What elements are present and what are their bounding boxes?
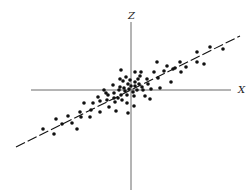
data-point <box>132 104 136 108</box>
data-point <box>112 96 116 100</box>
data-point <box>126 82 130 86</box>
data-point <box>91 101 95 105</box>
data-point <box>141 88 145 92</box>
data-point <box>136 77 140 81</box>
data-point <box>123 89 127 93</box>
data-point <box>107 105 111 109</box>
data-point <box>145 77 149 81</box>
data-point <box>178 60 182 64</box>
x-axis-label: X <box>237 84 246 95</box>
data-point <box>111 83 115 87</box>
data-point <box>125 101 129 105</box>
data-point <box>98 110 102 114</box>
data-point <box>127 87 131 91</box>
data-point <box>155 60 159 64</box>
data-point <box>221 47 225 51</box>
data-point <box>129 84 133 88</box>
data-point <box>119 68 123 72</box>
data-point <box>143 94 147 98</box>
data-point <box>124 75 128 79</box>
data-point <box>98 99 102 103</box>
data-point <box>133 70 137 74</box>
data-point <box>195 60 199 64</box>
data-point <box>88 115 92 119</box>
data-point <box>116 96 120 100</box>
data-point <box>146 82 150 86</box>
data-point <box>162 69 166 73</box>
data-point <box>133 84 137 88</box>
data-point <box>105 98 109 102</box>
data-point <box>139 70 143 74</box>
data-points <box>41 45 225 136</box>
data-point <box>202 62 206 66</box>
data-point <box>195 50 199 54</box>
data-point <box>66 114 70 118</box>
data-point <box>148 97 152 101</box>
data-point <box>138 74 142 78</box>
data-point <box>118 85 122 89</box>
data-point <box>89 108 93 112</box>
scatter-3d-chart: X Z <box>0 0 252 193</box>
data-point <box>120 98 124 102</box>
data-point <box>173 66 177 70</box>
data-point <box>41 127 45 131</box>
data-point <box>52 132 56 136</box>
data-point <box>96 95 100 99</box>
data-point <box>158 86 162 90</box>
data-point <box>106 93 110 97</box>
data-point <box>118 77 122 81</box>
data-point <box>54 117 58 121</box>
data-point <box>131 90 135 94</box>
data-point <box>78 110 82 114</box>
data-point <box>133 80 137 84</box>
data-point <box>75 127 79 131</box>
data-point <box>102 88 106 92</box>
data-point <box>152 70 156 74</box>
z-axis-label: Z <box>127 10 136 21</box>
data-point <box>82 101 86 105</box>
data-point <box>208 45 212 49</box>
data-point <box>70 121 74 125</box>
regression-line <box>16 36 240 147</box>
data-point <box>132 94 136 98</box>
data-point <box>128 78 132 82</box>
data-point <box>121 79 125 83</box>
data-point <box>114 109 118 113</box>
data-point <box>135 88 139 92</box>
data-point <box>112 91 116 95</box>
data-point <box>137 82 141 86</box>
data-point <box>79 115 83 119</box>
data-point <box>126 111 130 115</box>
data-point <box>179 70 183 74</box>
data-point <box>60 122 64 126</box>
data-point <box>169 80 173 84</box>
data-point <box>184 65 188 69</box>
data-point <box>165 64 169 68</box>
data-point <box>156 76 160 80</box>
data-point <box>113 100 117 104</box>
data-point <box>125 93 129 97</box>
data-point <box>119 93 123 97</box>
data-point <box>149 87 153 91</box>
